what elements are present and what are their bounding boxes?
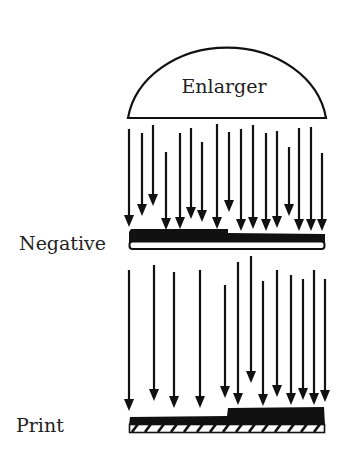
down-arrow-icon bbox=[161, 152, 171, 230]
down-arrow-icon bbox=[148, 125, 158, 206]
light-rays-to-negative bbox=[124, 124, 327, 231]
down-arrow-icon bbox=[309, 270, 319, 405]
down-arrow-icon bbox=[233, 262, 243, 405]
down-arrow-icon bbox=[220, 285, 230, 398]
negative-label: Negative bbox=[19, 232, 106, 254]
negative-emulsion bbox=[129, 229, 325, 242]
down-arrow-icon bbox=[258, 281, 268, 406]
down-arrow-icon bbox=[169, 272, 179, 408]
print-emulsion bbox=[129, 407, 325, 425]
enlarger-diagram: Enlarger Negative Print bbox=[0, 0, 346, 460]
down-arrow-icon bbox=[298, 279, 308, 400]
print-paper bbox=[129, 407, 325, 433]
down-arrow-icon bbox=[286, 275, 296, 405]
light-rays-to-print bbox=[124, 256, 330, 411]
down-arrow-icon bbox=[236, 129, 246, 231]
print-base bbox=[130, 425, 325, 433]
down-arrow-icon bbox=[224, 132, 234, 212]
down-arrow-icon bbox=[261, 133, 271, 231]
down-arrow-icon bbox=[149, 265, 159, 401]
down-arrow-icon bbox=[272, 270, 282, 397]
down-arrow-icon bbox=[306, 127, 316, 231]
negative-base bbox=[130, 242, 325, 250]
down-arrow-icon bbox=[124, 270, 134, 411]
down-arrow-icon bbox=[272, 131, 282, 228]
down-arrow-icon bbox=[124, 129, 134, 227]
negative-film bbox=[129, 229, 325, 249]
down-arrow-icon bbox=[284, 147, 294, 216]
down-arrow-icon bbox=[212, 124, 222, 229]
print-label: Print bbox=[16, 414, 64, 436]
enlarger-label: Enlarger bbox=[181, 75, 267, 97]
down-arrow-icon bbox=[294, 128, 304, 231]
down-arrow-icon bbox=[317, 153, 327, 231]
down-arrow-icon bbox=[195, 270, 205, 408]
down-arrow-icon bbox=[320, 279, 330, 402]
down-arrow-icon bbox=[197, 142, 207, 222]
down-arrow-icon bbox=[137, 133, 147, 216]
down-arrow-icon bbox=[186, 128, 196, 219]
down-arrow-icon bbox=[246, 256, 256, 383]
down-arrow-icon bbox=[248, 125, 258, 229]
down-arrow-icon bbox=[175, 133, 185, 229]
